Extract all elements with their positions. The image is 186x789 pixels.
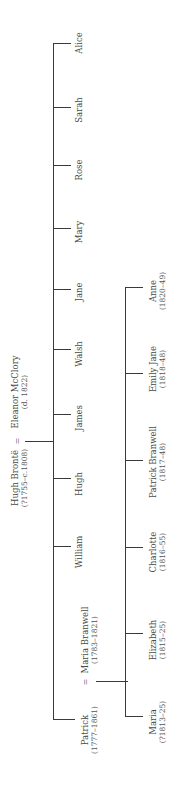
person-james: James — [74, 405, 84, 431]
person-name: James — [74, 405, 84, 431]
person-dates: (1820–49) — [158, 272, 168, 310]
person-dates: (?1813–25) — [158, 701, 168, 743]
person-name: Hugh — [74, 472, 84, 496]
person-name: Charlotte — [148, 532, 158, 573]
siblings-bar-gen2 — [53, 43, 54, 720]
person-eleanor-mcclory: Eleanor McClory (d. 1822) — [10, 355, 30, 428]
tick-hugh — [53, 478, 71, 479]
person-dates: (d. 1822) — [20, 355, 30, 428]
person-name: Patrick — [80, 706, 90, 754]
person-mary: Mary — [74, 221, 84, 244]
person-maria-branwell: Maria Branwell (1783–1821) — [80, 607, 100, 674]
tick-patrick — [53, 719, 75, 720]
tick-anne — [125, 287, 143, 288]
person-name: Elizabeth — [148, 620, 158, 661]
person-dates: (1817–48) — [158, 426, 168, 498]
tick-mary — [53, 228, 71, 229]
person-name: Maria — [148, 701, 158, 743]
family-tree-diagram: Hugh Brontë (?1755–c.1808) = Eleanor McC… — [0, 0, 186, 789]
tick-patrick-branwell — [125, 460, 143, 461]
person-maria: Maria (?1813–25) — [148, 701, 168, 743]
tick-james — [53, 414, 71, 415]
person-sarah: Sarah — [74, 97, 84, 123]
person-dates: (1783–1821) — [90, 607, 100, 674]
tick-rose — [53, 165, 71, 166]
person-charlotte: Charlotte (1816–55) — [148, 532, 168, 573]
person-elizabeth: Elizabeth (1815–25) — [148, 620, 168, 661]
person-name: William — [74, 536, 84, 569]
person-alice: Alice — [74, 32, 84, 53]
tick-william — [53, 546, 71, 547]
tick-elizabeth — [125, 633, 143, 634]
person-hugh: Hugh — [74, 472, 84, 496]
tick-jane — [53, 289, 71, 290]
person-name: Patrick Branwell — [148, 426, 158, 498]
person-dates: (1777–1861) — [90, 706, 100, 754]
person-name: Walsh — [74, 341, 84, 367]
tick-walsh — [53, 349, 71, 350]
person-name: Sarah — [74, 97, 84, 123]
tick-maria — [125, 716, 143, 717]
marriage-connector-line — [25, 441, 54, 442]
person-name: Jane — [74, 283, 84, 302]
person-dates: (?1755–c.1808) — [20, 449, 30, 507]
person-dates: (1818–48) — [158, 346, 168, 392]
person-anne: Anne (1820–49) — [148, 272, 168, 310]
person-name: Maria Branwell — [80, 607, 90, 674]
person-patrick-branwell: Patrick Branwell (1817–48) — [148, 426, 168, 498]
tick-charlotte — [125, 547, 143, 548]
person-patrick: Patrick (1777–1861) — [80, 706, 100, 754]
person-jane: Jane — [74, 283, 84, 302]
person-rose: Rose — [74, 160, 84, 181]
tick-emily-jane — [125, 373, 143, 374]
person-name: Alice — [74, 32, 84, 53]
person-name: Emily Jane — [148, 346, 158, 392]
person-hugh-bronte: Hugh Brontë (?1755–c.1808) — [10, 449, 30, 507]
person-dates: (1815–25) — [158, 620, 168, 661]
marriage-connector-line-patrick — [96, 681, 128, 682]
person-dates: (1816–55) — [158, 532, 168, 573]
person-emily-jane: Emily Jane (1818–48) — [148, 346, 168, 392]
person-name: Hugh Brontë — [10, 449, 20, 507]
person-walsh: Walsh — [74, 341, 84, 367]
person-name: Mary — [74, 221, 84, 244]
marriage-symbol: = — [13, 438, 22, 445]
person-name: Eleanor McClory — [10, 355, 20, 428]
tick-sarah — [53, 107, 71, 108]
person-william: William — [74, 536, 84, 569]
tick-alice — [53, 43, 71, 44]
person-name: Rose — [74, 160, 84, 181]
person-name: Anne — [148, 272, 158, 310]
marriage-symbol-patrick: = — [81, 679, 90, 686]
siblings-bar-gen3 — [125, 287, 126, 717]
